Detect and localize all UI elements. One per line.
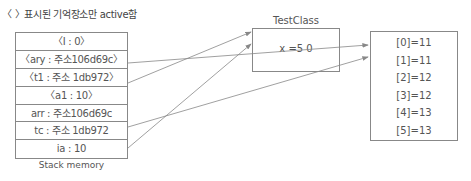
arrow-tc-to-testclass (128, 44, 251, 148)
arrow-t1-to-testclass (128, 32, 251, 83)
arrow-ary-to-array (128, 45, 368, 63)
arrow-arr-to-array (128, 57, 368, 127)
reference-arrows (0, 0, 471, 181)
